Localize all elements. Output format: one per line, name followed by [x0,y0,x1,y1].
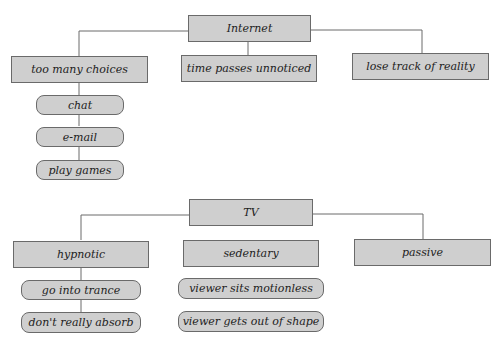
hypnotic-node: hypnotic [13,241,149,268]
too-many-choices-node: too many choices [11,56,148,83]
viewer-gets-out-of-shape-node: viewer gets out of shape [178,311,324,332]
dont-really-absorb-node: don't really absorb [21,312,141,333]
sedentary-node: sedentary [183,240,319,267]
e-mail-node: e-mail [36,127,124,147]
tv-root-node: TV [189,199,313,226]
chat-node: chat [36,95,124,115]
viewer-sits-motionless-node: viewer sits motionless [178,278,324,299]
passive-node: passive [354,239,491,266]
internet-root-node: Internet [188,15,311,42]
go-into-trance-node: go into trance [21,280,141,300]
play-games-node: play games [36,160,124,180]
time-passes-unnoticed-node: time passes unnoticed [181,55,317,82]
lose-track-of-reality-node: lose track of reality [352,53,489,80]
